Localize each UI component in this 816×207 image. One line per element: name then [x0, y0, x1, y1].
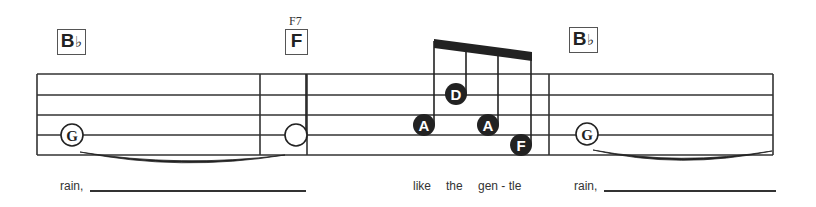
lyric-gentle: gen - tle [478, 179, 521, 193]
note-a-3: A [413, 114, 435, 136]
note-d-4: D [445, 83, 467, 105]
beam-group [434, 39, 532, 61]
music-staff: GADAFG [0, 0, 816, 207]
lyric-rain-2: rain, [574, 179, 597, 193]
note-f-6: F [510, 134, 532, 156]
chord-root: F [291, 30, 303, 51]
note-name-label: A [483, 117, 494, 134]
note-g-7: G [576, 123, 598, 145]
note-name-label: D [451, 86, 462, 103]
note-name-label: F [516, 137, 525, 154]
flat-sign: ♭ [75, 33, 82, 50]
note-half-2 [285, 124, 307, 146]
note-name-label: G [581, 127, 593, 143]
beam [434, 39, 532, 61]
chord-symbol-bb-1: B♭ [57, 29, 86, 55]
lyric-the: the [446, 179, 463, 193]
note-g-1: G [61, 124, 83, 146]
chord-root: B [61, 30, 75, 51]
noteheads: GADAFG [61, 83, 598, 156]
lyric-rain-1: rain, [60, 179, 83, 193]
note-a-5: A [477, 114, 499, 136]
chord-root: B [573, 28, 587, 49]
tie-arc [80, 152, 285, 163]
note-name-label: G [66, 128, 78, 144]
chord-symbol-bb-2: B♭ [569, 27, 598, 53]
ties [80, 150, 772, 163]
note-name-label: A [419, 117, 430, 134]
flat-sign: ♭ [587, 31, 594, 48]
lyric-like: like [413, 179, 431, 193]
notehead-open [285, 124, 307, 146]
melisma-line-1 [90, 190, 306, 192]
staff-lines [37, 74, 773, 155]
melisma-line-2 [604, 190, 776, 192]
chord-label-f7: F7 [289, 14, 302, 29]
chord-symbol-f: F [285, 29, 308, 55]
